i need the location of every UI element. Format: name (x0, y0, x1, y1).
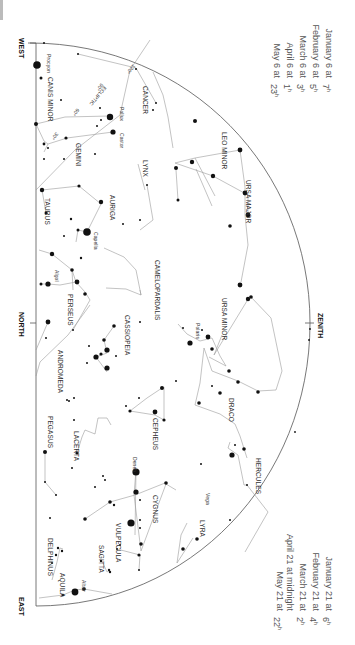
time-row: January 6 at7h (321, 14, 334, 97)
label-cepheus: CEPHEUS (152, 418, 159, 451)
time-row: February 21 at4h (308, 523, 321, 630)
label-procyon: Procyon (46, 54, 52, 73)
label-north: NORTH (18, 312, 25, 337)
time-row: January 21 at6h (321, 523, 334, 630)
label-aquila: AQUILA (58, 573, 66, 598)
label-camelopardalis: CAMELOPARDALIS (154, 260, 161, 321)
label-pegasus: PEGASUS (47, 416, 54, 449)
label-andromeda: ANDROMEDA (57, 350, 64, 394)
label-gemini: GEMINI (75, 143, 82, 167)
label-pollux: Pollux (119, 107, 125, 122)
star-capella (83, 228, 91, 236)
star-altair (72, 589, 79, 596)
time-row: April 21 at midnight (285, 523, 295, 630)
label-castor: Castor (119, 133, 125, 149)
label-delphinus: DELPHINUS (47, 538, 54, 577)
label-taurus: TAURUS (44, 198, 51, 225)
svg-text:60°: 60° (71, 107, 81, 117)
time-row: March 21 at2h (295, 523, 308, 630)
label-leo-minor: LEO MINOR (221, 132, 228, 170)
label-ursa-major: URSA MAJOR (245, 180, 252, 223)
label-lynx: LYNX (142, 160, 149, 177)
label-canis-minor: CANIS MINOR (47, 77, 54, 122)
star-polaris (187, 340, 192, 345)
star-pollux (107, 114, 113, 120)
star-procyon (33, 61, 41, 69)
label-zenith: ZENITH (317, 313, 324, 338)
star-castor (110, 129, 115, 134)
label-lacerta: LACERTA (73, 431, 80, 462)
label-west: WEST (18, 38, 25, 59)
label-altair: Altair (81, 580, 87, 592)
label-deneb: Deneb (132, 457, 138, 472)
times-bottom-block: January 21 at6h February 21 at4h March 2… (272, 523, 334, 630)
time-row: April 6 at1h (282, 14, 295, 97)
label-cancer: CANCER (142, 86, 149, 114)
label-algol: Algol (54, 270, 60, 282)
label-vulpecula: VULPECULA (115, 523, 122, 563)
label-draco: DRACO (228, 398, 235, 422)
label-sagitta: SAGITTA (98, 545, 105, 574)
svg-text:120°: 120° (125, 63, 137, 75)
label-cygnus: CYGNUS (152, 495, 159, 524)
label-polaris: Polaris (195, 323, 201, 339)
star-algol (45, 281, 50, 286)
label-vega: Vega (205, 493, 211, 505)
times-top-block: January 6 at7h February 6 at5h March 6 a… (269, 14, 334, 97)
label-capella: Capella (93, 232, 99, 250)
svg-text:30°: 30° (50, 131, 60, 141)
time-row: May 6 at23h (269, 14, 282, 97)
label-hercules: HERCULES (255, 458, 262, 495)
label-auriga: AURIGA (109, 195, 116, 221)
ecliptic-labels: ECLIPTIC 120° 90° 60° 30° (50, 63, 137, 141)
time-row: March 6 at3h (295, 14, 308, 97)
time-row: February 6 at5h (308, 14, 321, 97)
label-perseus: PERSEUS (67, 294, 74, 326)
label-lyra: LYRA (199, 520, 206, 537)
time-row: May 21 at22h (272, 523, 285, 630)
star-vega (127, 519, 134, 526)
label-ursa-minor: URSA MINOR (221, 298, 228, 340)
label-cassiopeia: CASSIOPEIA (124, 315, 131, 356)
label-east: EAST (18, 597, 25, 616)
